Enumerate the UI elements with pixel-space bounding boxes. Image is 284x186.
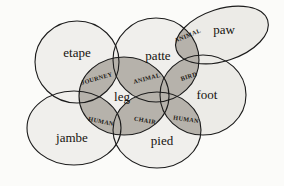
set-label-etape: etape: [63, 45, 91, 60]
set-label-patte: patte: [145, 48, 170, 63]
venn-ellipse-diagram: etape patte paw leg foot jambe pied JOUR…: [0, 0, 284, 186]
set-label-leg: leg: [114, 89, 130, 104]
set-label-foot: foot: [197, 87, 218, 102]
set-label-jambe: jambe: [55, 130, 88, 145]
set-label-paw: paw: [213, 22, 235, 37]
set-label-pied: pied: [151, 133, 174, 148]
diagram-canvas: etape patte paw leg foot jambe pied JOUR…: [0, 0, 284, 186]
